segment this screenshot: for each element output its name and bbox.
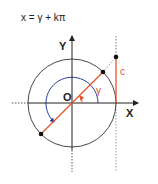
x-axis-label: X xyxy=(126,107,134,119)
point-on-circle xyxy=(101,70,106,75)
unit-circle-diagram: Y X O γ c xyxy=(0,0,158,184)
angle-label: γ xyxy=(96,85,101,96)
point-tangent xyxy=(114,55,119,60)
point-opposite xyxy=(39,132,44,137)
ray-dotted-extension xyxy=(103,57,116,72)
tangent-label: c xyxy=(120,66,125,77)
origin-label: O xyxy=(63,91,72,103)
angle-gamma-arc xyxy=(80,96,82,103)
y-axis-label: Y xyxy=(59,40,67,52)
